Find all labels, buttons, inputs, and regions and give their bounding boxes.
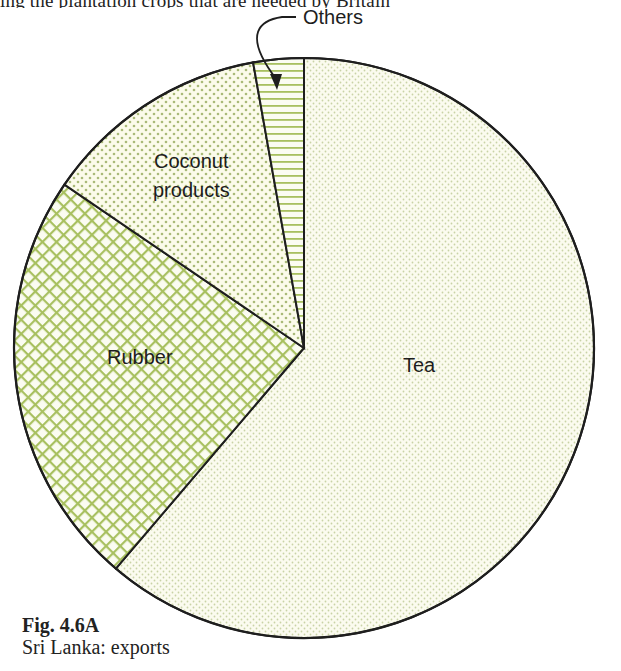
label-coconut-line1: Coconut <box>154 150 229 172</box>
pie-chart: Tea Rubber Coconut products Others <box>0 0 621 671</box>
figure-title: Sri Lanka: exports <box>22 636 170 658</box>
figure-number: Fig. 4.6A <box>22 614 170 636</box>
figure-caption: Fig. 4.6A Sri Lanka: exports <box>22 614 170 658</box>
label-coconut-line2: products <box>153 179 230 201</box>
label-rubber: Rubber <box>107 346 173 368</box>
label-tea: Tea <box>403 354 436 376</box>
label-others: Others <box>303 6 363 28</box>
